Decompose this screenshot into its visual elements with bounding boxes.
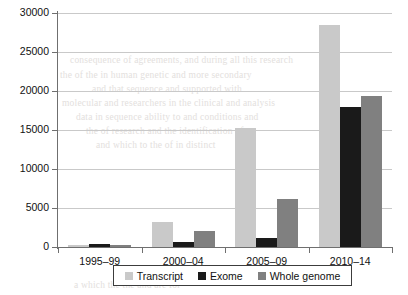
bar bbox=[319, 25, 340, 247]
legend-swatch-icon bbox=[198, 272, 206, 280]
y-axis-tick bbox=[52, 247, 58, 248]
y-axis-tick-label: 5000 bbox=[26, 201, 49, 213]
y-axis-tick bbox=[52, 13, 58, 14]
y-axis-tick-label: 25000 bbox=[20, 45, 49, 57]
gridline bbox=[58, 52, 392, 53]
x-axis-tick bbox=[309, 247, 310, 253]
legend-swatch-icon bbox=[125, 272, 133, 280]
y-axis-tick-label: 30000 bbox=[20, 6, 49, 18]
bar-chart-figure: consequence of agreements, and during al… bbox=[0, 0, 408, 295]
legend-label: Transcript bbox=[137, 270, 183, 282]
y-axis-labels: 050001000015000200002500030000 bbox=[0, 0, 49, 295]
bar bbox=[152, 222, 173, 247]
legend-item: Exome bbox=[198, 270, 243, 282]
bar bbox=[194, 231, 215, 247]
plot-area bbox=[58, 13, 392, 247]
legend-item: Whole genome bbox=[258, 270, 341, 282]
bar bbox=[340, 107, 361, 247]
legend-label: Whole genome bbox=[270, 270, 341, 282]
y-axis-tick-label: 10000 bbox=[20, 162, 49, 174]
legend-swatch-icon bbox=[258, 272, 266, 280]
y-axis-tick bbox=[52, 52, 58, 53]
legend-label: Exome bbox=[210, 270, 243, 282]
bar bbox=[235, 128, 256, 247]
gridline bbox=[58, 13, 392, 14]
x-axis-end-tick bbox=[58, 247, 59, 253]
y-axis-tick bbox=[52, 208, 58, 209]
y-axis-tick bbox=[52, 91, 58, 92]
y-axis-tick-label: 20000 bbox=[20, 84, 49, 96]
y-axis-tick bbox=[52, 169, 58, 170]
y-axis-tick-label: 0 bbox=[43, 240, 49, 252]
gridline bbox=[58, 91, 392, 92]
bar bbox=[361, 96, 382, 247]
y-axis-tick bbox=[52, 130, 58, 131]
bar bbox=[277, 199, 298, 247]
legend-item: Transcript bbox=[125, 270, 183, 282]
chart-legend: TranscriptExomeWhole genome bbox=[113, 265, 352, 286]
x-axis-tick bbox=[225, 247, 226, 253]
x-axis-tick bbox=[142, 247, 143, 253]
y-axis-tick-label: 15000 bbox=[20, 123, 49, 135]
x-axis-end-tick bbox=[392, 247, 393, 253]
